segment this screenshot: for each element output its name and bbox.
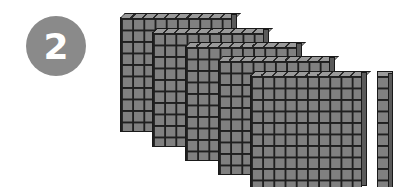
ten-rod <box>377 75 389 187</box>
step-number-badge: 2 <box>26 16 86 76</box>
hundred-flat-5 <box>250 75 362 187</box>
step-number: 2 <box>43 26 68 67</box>
